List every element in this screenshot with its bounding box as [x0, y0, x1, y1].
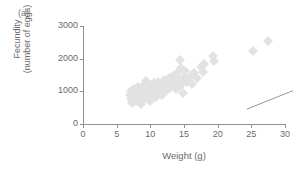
y-axis-tick-label: 2000	[38, 54, 78, 63]
x-axis-tick	[218, 125, 219, 128]
x-axis-tick	[83, 125, 84, 128]
plot-area	[83, 26, 285, 124]
x-axis-tick-label: 15	[174, 130, 194, 139]
x-axis-tick-label: 0	[73, 130, 93, 139]
x-axis-tick	[251, 125, 252, 128]
x-axis-tick-label: 5	[107, 130, 127, 139]
x-axis-tick	[117, 125, 118, 128]
y-axis-tick-label: 1000	[38, 86, 78, 95]
figure-panel-a: (a) Fecundity (number of eggs) Weight (g…	[0, 0, 293, 172]
x-axis-tick	[184, 125, 185, 128]
x-axis-tick	[285, 125, 286, 128]
x-axis-tick-label: 30	[275, 130, 293, 139]
x-axis-tick	[150, 125, 151, 128]
x-axis-tick-label: 20	[208, 130, 228, 139]
y-axis-title: Fecundity (number of eggs)	[11, 0, 33, 99]
y-axis-title-line1: Fecundity	[12, 19, 23, 58]
x-axis-tick-label: 10	[140, 130, 160, 139]
x-axis-tick-label: 25	[241, 130, 261, 139]
data-point	[263, 36, 273, 46]
y-axis-tick-label: 3000	[38, 21, 78, 30]
x-axis-title: Weight (g)	[83, 150, 285, 161]
data-point	[248, 46, 258, 56]
y-axis-title-line2: (number of eggs)	[22, 5, 33, 74]
y-axis-tick-label: 0	[38, 119, 78, 128]
data-point	[209, 56, 219, 66]
